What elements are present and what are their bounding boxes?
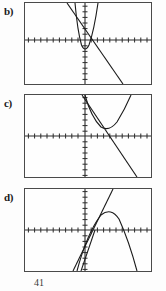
parabola-curve — [85, 95, 131, 129]
worksheet-page: b) — [0, 0, 166, 291]
panel-c-label: c) — [4, 97, 12, 109]
panel-b-graph-screen — [24, 2, 152, 85]
panel-d-label: d) — [4, 191, 13, 203]
parabola-curve — [77, 212, 137, 271]
panel-c-plot — [25, 95, 151, 177]
panel-d-graph-screen — [24, 188, 152, 272]
panel-c-graph-screen — [24, 94, 152, 178]
panel-d-plot — [25, 189, 151, 271]
panel-b-label: b) — [4, 5, 13, 17]
panel-b-plot — [25, 3, 151, 84]
page-number: 41 — [34, 277, 44, 288]
line-curve — [67, 3, 123, 84]
